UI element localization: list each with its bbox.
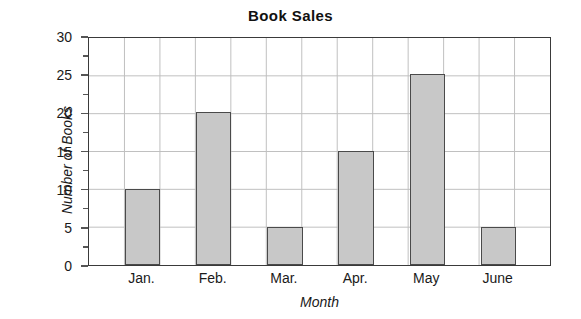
y-tick-mark-major: [81, 74, 88, 75]
bar-june: [481, 227, 517, 265]
bar-feb: [196, 112, 232, 265]
x-tick-label: Feb.: [199, 270, 227, 286]
bar-mar: [267, 227, 303, 265]
bar-apr: [338, 151, 374, 266]
x-tick-label: May: [413, 270, 439, 286]
y-tick-mark-major: [81, 36, 88, 37]
y-tick-label: 5: [64, 220, 72, 236]
x-tick-label: Jan.: [128, 270, 154, 286]
x-tick-label: Mar.: [270, 270, 297, 286]
y-tick-label: 25: [56, 67, 72, 83]
x-tick-label: Apr.: [343, 270, 368, 286]
x-axis-tick-labels: Jan.Feb.Mar.Apr.MayJune: [88, 270, 551, 292]
y-tick-mark-major: [81, 265, 88, 266]
bar-chart: Book Sales Number of Books 051015202530 …: [0, 0, 581, 319]
bar-may: [410, 74, 446, 265]
x-axis-title: Month: [88, 294, 551, 310]
y-tick-label: 30: [56, 29, 72, 45]
y-axis: Number of Books 051015202530: [0, 0, 88, 319]
bars-layer: [89, 38, 550, 265]
plot-area: [88, 37, 551, 266]
y-tick-label: 15: [56, 144, 72, 160]
y-tick-label: 10: [56, 182, 72, 198]
y-tick-label: 0: [64, 258, 72, 274]
y-tick-mark-major: [81, 189, 88, 190]
y-tick-label: 20: [56, 105, 72, 121]
y-tick-mark-major: [81, 113, 88, 114]
bar-jan: [125, 189, 161, 265]
x-tick-label: June: [482, 270, 512, 286]
y-tick-mark-major: [81, 151, 88, 152]
y-tick-mark-major: [81, 227, 88, 228]
